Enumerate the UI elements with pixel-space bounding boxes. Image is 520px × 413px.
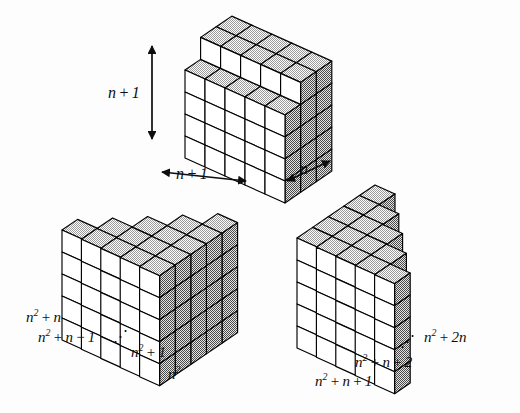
left-label-2: n2 + n − 1 bbox=[38, 330, 95, 345]
depth-label: n bbox=[300, 161, 308, 177]
left-label-3: n2 + 1 bbox=[131, 345, 166, 360]
right-label-ellipsis: ⋰ bbox=[400, 336, 417, 351]
right-label-3: n2 + 2n bbox=[424, 330, 467, 345]
figure-canvas: n + 1 n + 1 n n2 + n n2 + n − 1 ⋰ n2 + 1… bbox=[0, 0, 520, 413]
left-label-ellipsis: ⋰ bbox=[113, 331, 130, 346]
right-label-2: n2 + n + 2 bbox=[355, 355, 412, 370]
left-label-1: n2 + n bbox=[26, 310, 61, 325]
width-label: n + 1 bbox=[176, 166, 208, 182]
height-label: n + 1 bbox=[108, 85, 140, 101]
right-label-1: n2 + n + 1 bbox=[315, 374, 372, 389]
cube-diagram bbox=[0, 0, 520, 413]
left-label-4: n2 bbox=[168, 367, 181, 382]
